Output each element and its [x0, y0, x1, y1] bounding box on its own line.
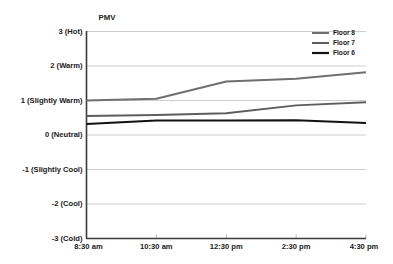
- series-line-floor-6: [87, 120, 367, 124]
- legend: Floor 8Floor 7Floor 6: [312, 29, 355, 56]
- x-tick-label: 10:30 am: [140, 242, 173, 251]
- pmv-line-chart: 3 (Hot)2 (Warm)1 (Slightly Warm)0 (Neutr…: [0, 0, 393, 264]
- legend-label-floor-6: Floor 6: [333, 49, 355, 56]
- y-axis-title: PMV: [99, 13, 117, 22]
- legend-label-floor-7: Floor 7: [333, 39, 355, 46]
- y-tick-label: 3 (Hot): [58, 27, 83, 36]
- x-tick-label: 8:30 am: [74, 242, 103, 251]
- gridlines-group: [87, 32, 367, 239]
- chart-canvas: 3 (Hot)2 (Warm)1 (Slightly Warm)0 (Neutr…: [0, 0, 393, 264]
- y-tick-label: 2 (Warm): [50, 61, 83, 70]
- series-group: [87, 72, 367, 124]
- x-tick-label: 12:30 pm: [210, 242, 243, 251]
- x-axis-tick-labels: 8:30 am10:30 am12:30 pm2:30 pm4:30 pm: [74, 242, 378, 251]
- series-line-floor-8: [87, 72, 367, 100]
- series-line-floor-7: [87, 102, 367, 116]
- y-tick-label: -2 (Cool): [52, 199, 83, 208]
- legend-label-floor-8: Floor 8: [333, 29, 355, 36]
- x-tick-label: 4:30 pm: [350, 242, 379, 251]
- y-axis-tick-labels: 3 (Hot)2 (Warm)1 (Slightly Warm)0 (Neutr…: [21, 27, 83, 243]
- x-tick-label: 2:30 pm: [282, 242, 311, 251]
- y-tick-label: -1 (Slightly Cool): [22, 165, 83, 174]
- y-tick-label: 0 (Neutral): [45, 130, 83, 139]
- y-tick-label: 1 (Slightly Warm): [21, 96, 83, 105]
